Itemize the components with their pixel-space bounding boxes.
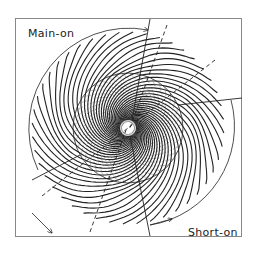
field-lines xyxy=(32,32,224,224)
short-on-arrow-head xyxy=(150,219,172,225)
main-on-label: Main-on xyxy=(28,27,74,40)
spiral-field-diagram: Main-on Short-on xyxy=(0,0,256,266)
main-on-arrow-lower xyxy=(32,213,52,233)
short-on-label: Short-on xyxy=(188,226,238,239)
